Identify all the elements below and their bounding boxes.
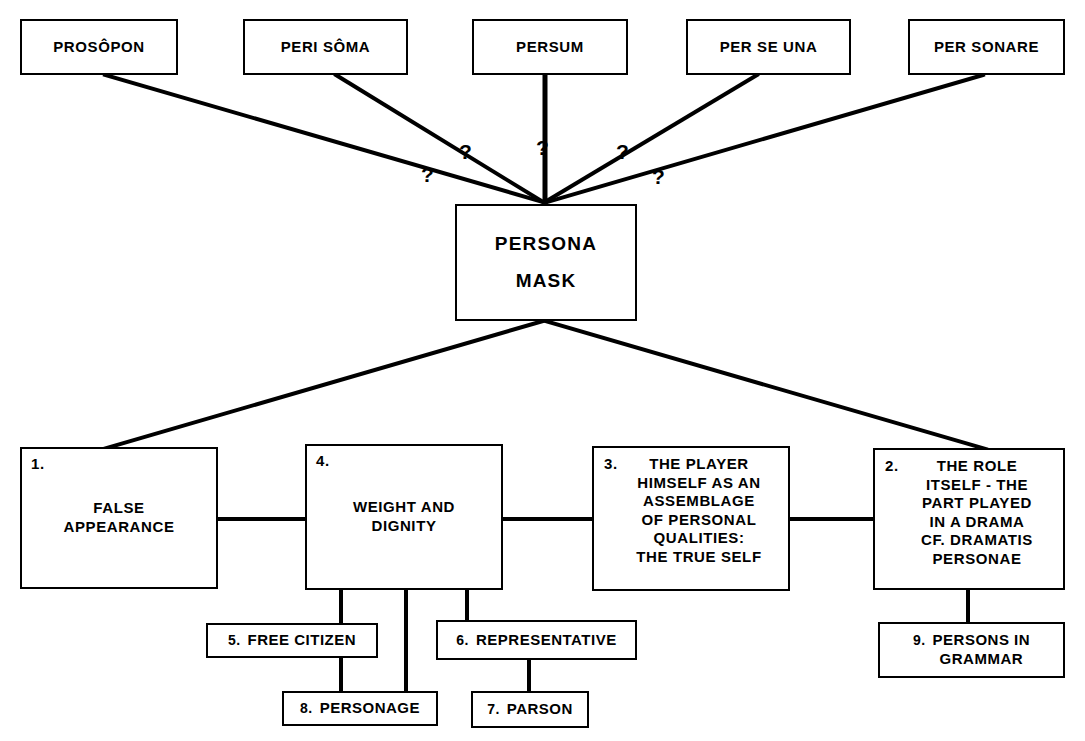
leaf-box-parson[interactable]: 7. PARSON [471, 691, 589, 728]
sense-number: 4. [316, 452, 330, 469]
leaf-label: PERSONS IN GRAMMAR [933, 631, 1031, 668]
leaf-number: 9. [913, 632, 926, 648]
etymology-label: PER SE UNA [720, 38, 818, 57]
sense-box-the-role-itself[interactable]: 2. THE ROLE ITSELF - THE PART PLAYED IN … [873, 448, 1065, 590]
line-prosopon-hub [105, 75, 543, 202]
sense-box-false-appearance[interactable]: 1. FALSE APPEARANCE [20, 447, 218, 589]
sense-number: 3. [604, 455, 618, 472]
line-hub-the-role [545, 321, 986, 449]
question-mark-icon: ? [652, 165, 665, 189]
leaf-label: REPRESENTATIVE [476, 631, 617, 650]
sense-label: THE PLAYER HIMSELF AS AN ASSEMBLAGE OF P… [600, 455, 782, 567]
leaf-number: 8. [300, 700, 313, 716]
leaf-number: 6. [456, 632, 469, 648]
leaf-number: 5. [228, 632, 241, 648]
etymology-box-persum[interactable]: PERSUM [472, 19, 628, 75]
etymology-label: PERI SÔMA [281, 38, 371, 57]
leaf-number: 7. [487, 701, 500, 717]
line-personare-hub [547, 75, 983, 202]
sense-number: 2. [885, 457, 899, 474]
sense-label: FALSE APPEARANCE [63, 499, 174, 536]
sense-label: WEIGHT AND DIGNITY [353, 498, 455, 535]
etymology-box-prosopon[interactable]: PROSÔPON [20, 19, 178, 75]
etymology-label: PERSUM [516, 38, 584, 57]
line-hub-false-appearance [103, 321, 543, 449]
question-mark-icon: ? [421, 163, 434, 187]
hub-box-persona-mask[interactable]: PERSONA MASK [455, 204, 637, 321]
hub-label: PERSONA MASK [495, 226, 597, 298]
leaf-label: PERSONAGE [320, 699, 420, 718]
question-mark-icon: ? [616, 140, 629, 164]
sense-number: 1. [31, 455, 45, 472]
leaf-box-representative[interactable]: 6. REPRESENTATIVE [436, 620, 637, 660]
sense-box-true-self[interactable]: 3. THE PLAYER HIMSELF AS AN ASSEMBLAGE O… [592, 446, 790, 591]
etymology-box-per-sonare[interactable]: PER SONARE [908, 19, 1065, 75]
leaf-label: PARSON [507, 700, 573, 719]
question-mark-icon: ? [536, 136, 549, 160]
etymology-box-per-se-una[interactable]: PER SE UNA [686, 19, 851, 75]
leaf-box-personage[interactable]: 8. PERSONAGE [282, 691, 438, 726]
etymology-box-peri-soma[interactable]: PERI SÔMA [243, 19, 408, 75]
question-mark-icon: ? [459, 140, 472, 164]
leaf-box-free-citizen[interactable]: 5. FREE CITIZEN [206, 623, 378, 658]
line-perseuna-hub [545, 75, 757, 202]
etymology-label: PER SONARE [934, 38, 1039, 57]
line-perisoma-hub [336, 75, 543, 202]
sense-box-weight-and-dignity[interactable]: 4. WEIGHT AND DIGNITY [305, 444, 503, 590]
sense-label: THE ROLE ITSELF - THE PART PLAYED IN A D… [881, 457, 1057, 569]
leaf-box-persons-in-grammar[interactable]: 9. PERSONS IN GRAMMAR [878, 622, 1065, 678]
diagram-canvas: PROSÔPON PERI SÔMA PERSUM PER SE UNA PER… [0, 0, 1085, 741]
etymology-label: PROSÔPON [53, 38, 144, 57]
leaf-label: FREE CITIZEN [248, 631, 357, 650]
